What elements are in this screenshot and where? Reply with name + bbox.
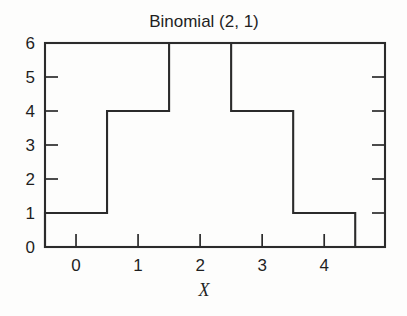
y-tick-label-1: 1 <box>26 204 35 223</box>
x-tick-label-3: 3 <box>257 256 266 275</box>
histogram-bars <box>45 43 355 247</box>
histogram-chart: Binomial (2, 1) 0123456 01234 X <box>0 0 407 316</box>
figure-container: Binomial (2, 1) 0123456 01234 X <box>0 0 407 316</box>
y-axis-ticks-left <box>45 77 58 213</box>
plot-frame <box>45 43 385 247</box>
x-axis-ticks <box>76 234 324 247</box>
y-tick-label-6: 6 <box>26 34 35 53</box>
y-axis-ticks-right <box>372 77 385 213</box>
x-tick-label-0: 0 <box>71 256 80 275</box>
histogram-outline <box>45 43 355 247</box>
x-axis-tick-labels: 01234 <box>71 256 329 275</box>
x-tick-label-4: 4 <box>319 256 328 275</box>
x-tick-label-2: 2 <box>195 256 204 275</box>
y-tick-label-0: 0 <box>26 238 35 257</box>
y-tick-label-2: 2 <box>26 170 35 189</box>
y-axis-tick-labels: 0123456 <box>26 34 35 257</box>
x-axis-title: X <box>198 280 211 300</box>
chart-title: Binomial (2, 1) <box>149 12 259 31</box>
y-tick-label-5: 5 <box>26 68 35 87</box>
y-tick-label-3: 3 <box>26 136 35 155</box>
x-tick-label-1: 1 <box>133 256 142 275</box>
y-tick-label-4: 4 <box>26 102 35 121</box>
